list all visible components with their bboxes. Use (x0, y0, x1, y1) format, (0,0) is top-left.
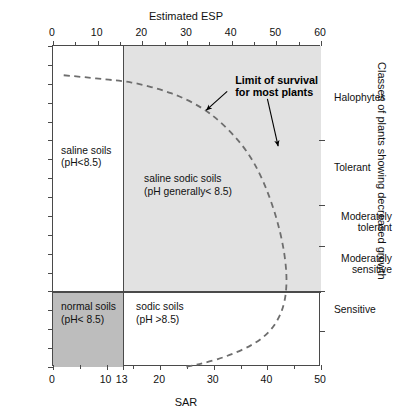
x2-tick-label-60: 60 (300, 27, 340, 38)
top-axis-title: Estimated ESP (149, 10, 223, 22)
x2-tick-label-0: 0 (32, 27, 72, 38)
plot-area: saline soils (pH<8.5)saline sodic soils … (52, 45, 320, 366)
annotation-arrow-1 (267, 99, 278, 146)
plant-class-label-0: Halophytes (334, 92, 392, 104)
annotation-limit-of-survival: Limit of survival for most plants (235, 74, 318, 99)
x2-tick-label-50: 50 (255, 27, 295, 38)
x-tick-label-0: 0 (32, 374, 72, 385)
bottom-axis-title: SAR (175, 396, 198, 408)
annotation-arrow-0 (206, 91, 227, 110)
x2-tick-60 (321, 41, 322, 46)
soil-salinity-sodicity-chart: Estimated ESP EC (dS m⁻¹) SAR Classes of… (0, 0, 412, 416)
survival-limit-curve (64, 75, 287, 367)
x2-tick-label-40: 40 (211, 27, 251, 38)
x-tick-50 (321, 365, 322, 370)
x-tick-label-40: 40 (246, 374, 286, 385)
x-tick-label-50: 50 (300, 374, 340, 385)
plant-class-label-2: Moderately tolerant (334, 211, 392, 234)
x-tick-label-13: 13 (102, 374, 142, 385)
x-tick-label-20: 20 (139, 374, 179, 385)
x-tick-label-30: 30 (193, 374, 233, 385)
plant-class-label-1: Tolerant (334, 162, 392, 174)
plant-class-label-3: Moderately sensitive (334, 253, 392, 276)
x2-tick-label-20: 20 (121, 27, 161, 38)
x2-tick-label-10: 10 (77, 27, 117, 38)
x2-tick-label-30: 30 (166, 27, 206, 38)
plant-class-label-4: Sensitive (334, 304, 392, 316)
